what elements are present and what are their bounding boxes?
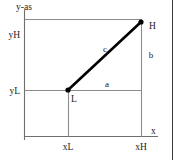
point-H-marker [138, 19, 143, 24]
point-label-L: L [71, 94, 77, 104]
y-axis-label: y-as [16, 2, 32, 12]
geometry-diagram: y-as x yH yL xL xH L H a b c [0, 0, 177, 160]
y-tick-label-yH: yH [8, 30, 20, 40]
x-tick-label-xH: xH [135, 142, 147, 152]
side-label-a: a [105, 79, 109, 89]
diagram-canvas: y-as x yH yL xL xH L H a b c [0, 0, 177, 160]
x-axis-label: x [151, 126, 156, 136]
y-tick-label-yL: yL [9, 86, 20, 96]
point-L-marker [65, 87, 70, 92]
side-label-b: b [149, 50, 154, 60]
point-label-H: H [149, 21, 156, 31]
side-label-c: c [103, 44, 107, 54]
x-tick-label-xL: xL [63, 142, 74, 152]
